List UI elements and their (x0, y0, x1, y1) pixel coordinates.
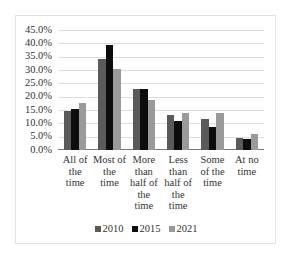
gridline (58, 110, 264, 111)
bar-2015 (106, 45, 114, 150)
bar-group (64, 30, 87, 150)
bar-2021 (251, 134, 259, 150)
bar-2010 (133, 89, 141, 150)
gridline (58, 137, 264, 138)
x-tick-label: Most ofthetime (92, 154, 128, 189)
x-tick-label: At notime (229, 154, 265, 177)
y-tick-label: 5.0% (12, 130, 52, 142)
legend-item-2010: 2010 (95, 223, 124, 235)
y-tick-label: 20.0% (12, 90, 52, 102)
legend-item-2015: 2015 (132, 223, 161, 235)
legend-item-2021: 2021 (169, 223, 198, 235)
bar-2010 (64, 111, 72, 150)
legend: 2010 2015 2021 (0, 223, 292, 235)
gridline (58, 123, 264, 124)
bar-2015 (174, 121, 182, 150)
plot-area (58, 30, 264, 150)
gridline (58, 97, 264, 98)
y-tick-label: 30.0% (12, 64, 52, 76)
x-tick-label: All ofthetime (57, 154, 93, 189)
legend-swatch-icon (169, 226, 175, 232)
bar-2015 (243, 139, 251, 150)
bar-group (201, 30, 224, 150)
bar-group (133, 30, 156, 150)
legend-label: 2010 (103, 223, 124, 235)
y-tick-label: 15.0% (12, 104, 52, 116)
y-tick-label: 0.0% (12, 144, 52, 156)
gridline (58, 30, 264, 31)
bar-2021 (79, 103, 87, 150)
bar-2010 (201, 119, 209, 150)
bar-group (98, 30, 121, 150)
legend-label: 2015 (140, 223, 161, 235)
y-tick-label: 10.0% (12, 117, 52, 129)
bar-2010 (98, 59, 106, 150)
y-tick-label: 40.0% (12, 37, 52, 49)
legend-swatch-icon (132, 226, 138, 232)
y-tick-label: 25.0% (12, 77, 52, 89)
legend-label: 2021 (177, 223, 198, 235)
x-tick-label: Someof thetime (195, 154, 231, 189)
legend-swatch-icon (95, 226, 101, 232)
x-axis-line (58, 149, 264, 150)
bar-2021 (182, 113, 190, 150)
gridline (58, 43, 264, 44)
bar-2015 (140, 89, 148, 150)
bar-2021 (216, 113, 224, 150)
bar-2021 (113, 69, 121, 150)
y-tick-label: 35.0% (12, 50, 52, 62)
gridline (58, 70, 264, 71)
gridline (58, 57, 264, 58)
bar-group (167, 30, 190, 150)
y-tick-label: 45.0% (12, 24, 52, 36)
bar-group (236, 30, 259, 150)
gridline (58, 83, 264, 84)
x-tick-label: Lessthanhalf ofthetime (160, 154, 196, 212)
bar-2010 (167, 115, 175, 150)
bar-2015 (71, 109, 79, 150)
bar-2010 (236, 138, 244, 150)
bar-2015 (209, 127, 217, 150)
x-tick-label: Morethanhalf ofthetime (126, 154, 162, 212)
bar-2021 (148, 100, 156, 150)
